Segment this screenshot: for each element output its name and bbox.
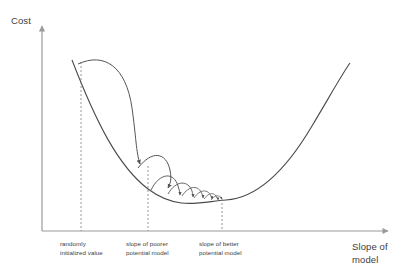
annotation-randomly-initialized-value: randomlyinitialized value [60, 240, 103, 257]
annotation-slope-of-poorer-potential-model: slope of poorerpotential model [126, 240, 169, 257]
descent-step-arrow-4 [168, 183, 193, 197]
annotation-0-line2: initialized value [60, 249, 103, 256]
x-axis-label-line1: Slope of [352, 241, 388, 252]
annotation-0-line1: randomly [60, 240, 86, 247]
annotation-slope-of-better-potential-model: slope of betterpotential model [199, 240, 242, 257]
x-axis-label-line2: model [352, 254, 378, 265]
descent-step-arrow-1 [78, 60, 140, 164]
gradient-descent-figure: Cost Slope ofmodel randomlyinitialized v… [0, 0, 406, 280]
cost-curve [72, 60, 350, 204]
descent-step-arrow-2 [138, 155, 171, 188]
x-axis-label: Slope ofmodel [352, 240, 388, 266]
annotation-1-line1: slope of poorer [126, 240, 168, 247]
annotation-1-line2: potential model [126, 249, 169, 256]
annotation-2-line2: potential model [199, 249, 242, 256]
cost-curve-plot [0, 0, 406, 280]
y-axis-label: Cost [11, 15, 31, 27]
annotation-2-line1: slope of better [199, 240, 239, 247]
